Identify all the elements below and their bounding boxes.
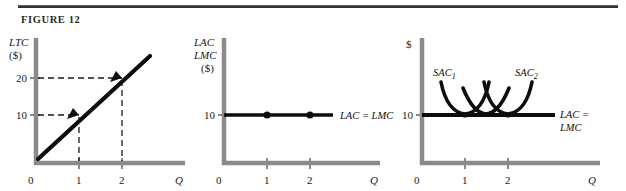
x-tick-label-2: 2 — [307, 174, 313, 186]
figure-title: FIGURE 12 — [21, 14, 80, 25]
origin-label: 0 — [216, 174, 222, 186]
point-marker-q2 — [306, 111, 313, 118]
y-axis-label-line2: LMC — [193, 49, 217, 61]
y-tick-label-10: 10 — [16, 109, 28, 121]
top-divider-rule — [18, 5, 618, 8]
lac-lmc-curve-label-line1: LAC = — [559, 109, 589, 120]
sac2-label: SAC2 — [515, 67, 538, 81]
point-marker-q1 — [263, 111, 270, 118]
panel-lac-lmc-chart: LAC LMC ($) 10 0 1 2 Q LAC = LMC — [190, 30, 405, 191]
x-tick-label-2: 2 — [505, 174, 511, 186]
origin-label: 0 — [414, 174, 420, 186]
x-tick-label-1: 1 — [462, 174, 468, 186]
y-axis-label-line3: ($) — [201, 62, 214, 75]
x-axis-label: Q — [175, 174, 183, 186]
y-axis-label-line1: LTC — [8, 36, 29, 48]
ltc-curve — [38, 56, 150, 159]
panel-sac: $ 10 0 1 2 Q SAC1 SAC2 LAC = LMC — [400, 30, 626, 191]
x-tick-label-2: 2 — [119, 174, 125, 186]
y-axis-label-line2: ($) — [9, 49, 22, 62]
point-marker-q1 — [462, 112, 467, 117]
y-axis-label-line1: LAC — [193, 36, 215, 48]
y-tick-label-10: 10 — [402, 109, 414, 121]
x-axis-label: Q — [588, 174, 596, 186]
y-axis-label: $ — [406, 38, 412, 50]
sac1-curve — [441, 82, 489, 114]
x-tick-label-1: 1 — [264, 174, 270, 186]
lac-lmc-curve-label-line2: LMC — [559, 122, 583, 133]
x-tick-label-1: 1 — [76, 174, 82, 186]
origin-label: 0 — [28, 174, 34, 186]
ltc-arrowhead-at-q2 — [110, 71, 122, 82]
sac1-label: SAC1 — [433, 67, 456, 81]
panel-ltc: LTC ($) 20 10 0 1 2 Q — [0, 30, 200, 191]
panel-sac-chart: $ 10 0 1 2 Q SAC1 SAC2 LAC = LMC — [400, 30, 626, 191]
y-tick-label-20: 20 — [16, 72, 28, 84]
y-tick-label-10: 10 — [204, 109, 216, 121]
ltc-arrowhead-at-q1 — [67, 108, 79, 119]
panel-ltc-chart: LTC ($) 20 10 0 1 2 Q — [0, 30, 200, 191]
figure-container: FIGURE 12 LTC ($) 20 10 — [0, 0, 626, 191]
panel-lac-lmc: LAC LMC ($) 10 0 1 2 Q LAC = LMC — [190, 30, 405, 191]
x-axis-label: Q — [370, 174, 378, 186]
lac-lmc-curve-label: LAC = LMC — [339, 110, 394, 121]
point-marker-q2 — [505, 112, 510, 117]
